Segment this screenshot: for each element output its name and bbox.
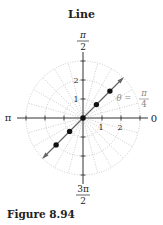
radial-label-1: 1	[98, 123, 103, 132]
line-label-theta: θ =	[117, 93, 132, 103]
radial-label-2: 2	[117, 123, 122, 132]
label-3pi-over-2-num: 3π	[77, 184, 89, 194]
line-label-num: π	[140, 88, 147, 98]
label-pi: π	[5, 112, 12, 123]
polar-diagram: π 2 3π 2 π 0 1 2 1 2 θ = π 4	[0, 0, 163, 225]
label-3pi-over-2-den: 2	[80, 196, 86, 206]
vertical-label-1: 1	[73, 95, 78, 104]
line-label-den: 4	[141, 99, 146, 109]
label-pi-over-2-den: 2	[80, 42, 86, 52]
label-zero: 0	[151, 113, 157, 124]
figure-caption: Figure 8.94	[7, 208, 75, 220]
vertical-label-2: 2	[73, 76, 78, 85]
label-pi-over-2-num: π	[79, 30, 87, 40]
